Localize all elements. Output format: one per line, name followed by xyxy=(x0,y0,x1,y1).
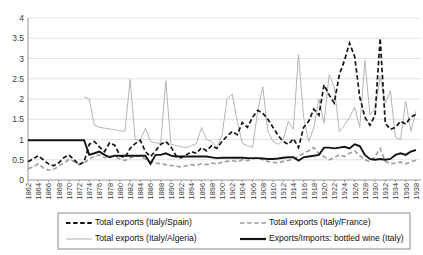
legend-label[interactable]: Total exports (Italy/Spain) xyxy=(95,217,192,227)
x-tick-label: 1902 xyxy=(228,183,237,199)
x-tick-label: 1908 xyxy=(259,183,268,199)
x-tick-label: 1916 xyxy=(300,183,309,199)
x-tick-label: 1920 xyxy=(320,183,329,199)
y-axis-tick-labels: 00.511.522.533.54 xyxy=(12,13,24,185)
x-tick-label: 1936 xyxy=(402,183,411,199)
x-tick-label: 1926 xyxy=(351,183,360,199)
legend-label[interactable]: Exports/Imports: bottled wine (Italy) xyxy=(269,233,404,243)
y-tick-label: 2.5 xyxy=(12,74,24,84)
x-tick-label: 1892 xyxy=(177,183,186,199)
chart-container: 00.511.522.533.54 1862186418661868187018… xyxy=(0,0,423,255)
x-tick-label: 1878 xyxy=(106,183,115,199)
legend-label[interactable]: Total exports (Italy/France) xyxy=(269,217,371,227)
x-tick-label: 1924 xyxy=(340,183,349,199)
y-tick-label: 3 xyxy=(19,54,24,64)
legend-label[interactable]: Total exports (Italy/Algeria) xyxy=(95,233,197,243)
x-tick-label: 1888 xyxy=(157,183,166,199)
x-tick-label: 1900 xyxy=(218,183,227,199)
x-tick-label: 1880 xyxy=(116,183,125,199)
x-axis-tick-labels: 1862186418661868187018721874187618781880… xyxy=(24,180,421,199)
y-tick-label: 1 xyxy=(19,135,24,145)
y-tick-label: 4 xyxy=(19,13,24,23)
chart-legend: Total exports (Italy/Spain)Total exports… xyxy=(58,213,410,249)
x-tick-label: 1876 xyxy=(95,183,104,199)
x-tick-label: 1934 xyxy=(391,183,400,199)
x-tick-label: 1904 xyxy=(238,183,247,199)
x-tick-label: 1912 xyxy=(279,183,288,199)
x-tick-label: 1872 xyxy=(75,183,84,199)
x-tick-label: 1874 xyxy=(85,183,94,199)
series-line-france xyxy=(28,148,416,171)
x-tick-label: 1894 xyxy=(187,183,196,199)
y-tick-label: 2 xyxy=(19,94,24,104)
x-tick-label: 1862 xyxy=(24,183,33,199)
x-tick-label: 1906 xyxy=(249,183,258,199)
x-tick-label: 1898 xyxy=(208,183,217,199)
x-tick-label: 1886 xyxy=(146,183,155,199)
series-line-algeria xyxy=(84,54,416,147)
x-tick-label: 1932 xyxy=(381,183,390,199)
data-series-group xyxy=(28,38,416,170)
y-tick-label: 1.5 xyxy=(12,114,24,124)
x-tick-label: 1938 xyxy=(412,183,421,199)
x-tick-label: 1928 xyxy=(361,183,370,199)
x-tick-label: 1884 xyxy=(136,183,145,199)
x-tick-label: 1864 xyxy=(34,183,43,199)
x-tick-label: 1882 xyxy=(126,183,135,199)
y-tick-label: 3.5 xyxy=(12,33,24,43)
x-tick-label: 1866 xyxy=(44,183,53,199)
x-tick-label: 1896 xyxy=(198,183,207,199)
y-tick-label: 0.5 xyxy=(12,155,24,165)
x-tick-label: 1910 xyxy=(269,183,278,199)
x-tick-label: 1918 xyxy=(310,183,319,199)
x-tick-label: 1922 xyxy=(330,183,339,199)
chart-svg: 00.511.522.533.54 1862186418661868187018… xyxy=(0,0,423,255)
x-tick-label: 1890 xyxy=(167,183,176,199)
x-tick-label: 1870 xyxy=(65,183,74,199)
x-tick-label: 1914 xyxy=(289,183,298,199)
x-tick-label: 1868 xyxy=(55,183,64,199)
x-tick-label: 1930 xyxy=(371,183,380,199)
